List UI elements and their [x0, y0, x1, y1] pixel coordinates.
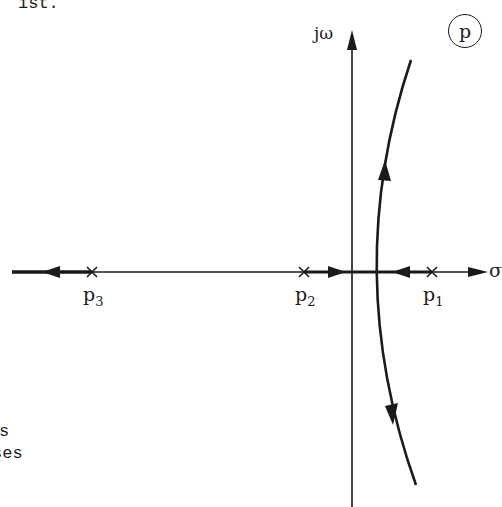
imaginary-axis-arrow-icon [347, 30, 357, 50]
branch-p2-arrow-icon [328, 266, 346, 278]
imaginary-axis-label: jω [314, 23, 333, 43]
plane-label: p [459, 20, 471, 42]
real-axis-label: σ [489, 259, 502, 281]
pole-label-p2: p2 [295, 283, 315, 309]
upper-branch-arrow-icon [378, 160, 391, 181]
plane-label-circle: p [448, 14, 482, 48]
pole-label-p1: p1 [423, 283, 443, 309]
real-axis-arrow-icon [468, 267, 488, 277]
branch-p1-arrow-icon [392, 266, 410, 278]
branch-p3-arrow-icon [42, 266, 60, 278]
pole-label-p3: p3 [83, 283, 103, 309]
